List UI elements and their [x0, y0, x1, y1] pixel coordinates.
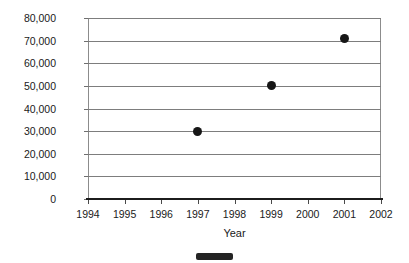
oranges-produced-scatter-chart: Oranges Produced 80,00070,00060,00050,00…: [0, 0, 409, 263]
y-tick-mark: [84, 176, 88, 177]
y-tick-mark: [84, 41, 88, 42]
y-tick-label: 50,000: [4, 81, 56, 91]
gridline: [88, 18, 381, 19]
data-point: [267, 81, 276, 90]
gridline: [88, 41, 381, 42]
y-tick-label: 70,000: [4, 36, 56, 46]
y-tick-label: 40,000: [4, 104, 56, 114]
y-tick-mark: [84, 109, 88, 110]
legend-swatch-artifact: [196, 253, 233, 260]
y-tick-mark: [84, 154, 88, 155]
gridline: [88, 86, 381, 87]
y-tick-label: 30,000: [4, 126, 56, 136]
y-tick-label: 10,000: [4, 171, 56, 181]
y-tick-mark: [84, 18, 88, 19]
y-tick-mark: [84, 86, 88, 87]
x-axis-title: Year: [88, 227, 381, 240]
data-point: [193, 127, 202, 136]
y-tick-label: 20,000: [4, 149, 56, 159]
data-point: [340, 34, 349, 43]
gridline: [88, 63, 381, 64]
y-tick-mark: [84, 63, 88, 64]
plot-area: 80,00070,00060,00050,00040,00030,00020,0…: [88, 18, 381, 199]
y-tick-mark: [84, 131, 88, 132]
gridline: [88, 176, 381, 177]
y-tick-label: 80,000: [4, 13, 56, 23]
gridline: [88, 131, 381, 132]
x-tick-label: 2002: [358, 208, 404, 220]
gridline: [88, 109, 381, 110]
x-axis-line: [86, 198, 383, 200]
y-tick-label: 60,000: [4, 58, 56, 68]
y-tick-label: 0: [4, 194, 56, 204]
gridline: [88, 154, 381, 155]
